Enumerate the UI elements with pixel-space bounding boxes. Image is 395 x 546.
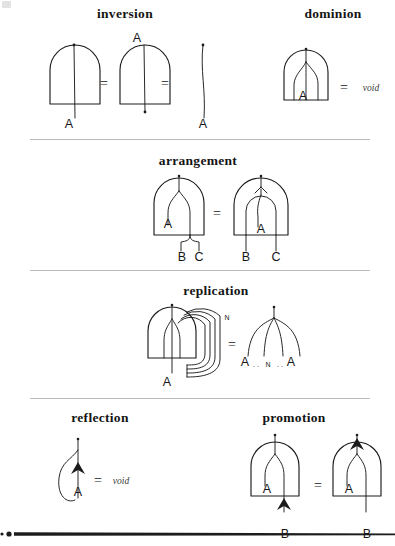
figure-promotion-right bbox=[328, 432, 394, 517]
section-divider-3 bbox=[30, 398, 370, 399]
label-promotion-right-A: A bbox=[345, 482, 353, 496]
equals-arrangement: = bbox=[213, 206, 221, 222]
figure-replication-right bbox=[240, 306, 310, 358]
section-divider-2 bbox=[30, 270, 370, 271]
section-title-inversion: inversion bbox=[97, 6, 153, 22]
bottom-decorative-rule bbox=[0, 528, 395, 540]
label-promotion-left-A: A bbox=[263, 482, 271, 496]
figure-arrangement-right bbox=[228, 173, 303, 253]
label-arrangement-right-B: B bbox=[242, 250, 250, 264]
void-text-reflection: void bbox=[113, 476, 129, 486]
section-title-dominion: dominion bbox=[304, 6, 361, 22]
label-replication-right-N: N bbox=[265, 361, 270, 368]
label-replication-left-A: A bbox=[163, 375, 171, 389]
label-inversion-left-A: A bbox=[65, 117, 73, 131]
section-title-promotion: promotion bbox=[262, 410, 325, 426]
label-replication-right-A2: A bbox=[287, 355, 295, 369]
section-title-arrangement: arrangement bbox=[159, 153, 237, 169]
label-replication-right-A1: A bbox=[241, 355, 249, 369]
equals-reflection: = bbox=[94, 473, 102, 489]
replication-dots-right: . . bbox=[277, 361, 283, 368]
equals-replication: = bbox=[228, 337, 236, 353]
label-inversion-mid-A: A bbox=[133, 31, 141, 45]
diagram-page: inversion = = A A A dominion bbox=[0, 0, 395, 546]
label-arrangement-left-C: C bbox=[194, 250, 203, 264]
figure-dominion bbox=[278, 44, 348, 114]
section-divider-1 bbox=[30, 139, 370, 140]
figure-promotion-left bbox=[246, 432, 312, 517]
equals-inversion-2: = bbox=[161, 76, 169, 92]
equals-promotion: = bbox=[314, 478, 322, 494]
replication-dots-left: . . bbox=[253, 361, 259, 368]
figure-inversion bbox=[40, 40, 220, 120]
label-arrangement-right-C: C bbox=[271, 250, 280, 264]
page-corner-mark bbox=[2, 1, 11, 8]
label-arrangement-left-A: A bbox=[164, 217, 172, 231]
section-title-replication: replication bbox=[183, 283, 248, 299]
label-reflection-A: A bbox=[74, 485, 82, 499]
label-arrangement-right-A: A bbox=[257, 222, 265, 236]
section-title-reflection: reflection bbox=[71, 410, 128, 426]
label-arrangement-left-B: B bbox=[178, 250, 186, 264]
label-dominion-A: A bbox=[299, 89, 307, 103]
figure-arrangement-left bbox=[148, 173, 218, 253]
equals-inversion-1: = bbox=[100, 76, 108, 92]
figure-replication-left bbox=[143, 303, 233, 388]
equals-dominion: = bbox=[340, 80, 348, 96]
label-inversion-right-A: A bbox=[199, 117, 207, 131]
void-text-dominion: void bbox=[363, 83, 379, 93]
label-replication-N: N bbox=[224, 314, 229, 321]
